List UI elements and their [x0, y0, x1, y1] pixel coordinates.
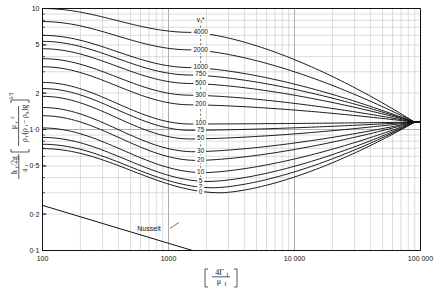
nusselt-leader-line [170, 222, 179, 228]
curve-label: 1000 [193, 63, 208, 70]
chart-root: 0·10·20·51·02510100100010 000100 0004000… [0, 0, 439, 295]
y-axis-tick-label: 0·5 [29, 162, 39, 169]
x-axis-tick-label: 1000 [161, 255, 177, 262]
data-curve [43, 49, 421, 122]
curve-label: 300 [195, 91, 206, 98]
curve-param-symbol: v₁* [197, 16, 205, 23]
x-axis-tick-label: 10 000 [284, 255, 306, 262]
data-curve [43, 59, 421, 123]
curve-label: 10 [197, 168, 205, 175]
y-label-bracket-denominator-rest-3: )g [20, 105, 29, 111]
y-label-bracket-numerator-subscript: f [14, 121, 19, 123]
y-label-bracket-numerator-superscript: 2 [10, 116, 15, 119]
curve-label: 4000 [193, 28, 208, 35]
y-axis-tick-label: 5 [36, 41, 40, 48]
y-label-bracket-numerator: μ [9, 125, 18, 129]
y-axis: 0·10·20·51·02510 [29, 5, 46, 254]
data-curve [43, 122, 421, 193]
x-label-denominator-subscript: f [225, 281, 227, 287]
nusselt-line [43, 205, 193, 250]
y-axis-tick-label: 2 [36, 90, 40, 97]
y-label-bracket [11, 149, 29, 152]
y-label-lead-denominator-subscript: f [24, 164, 29, 166]
data-curve [43, 122, 421, 181]
y-label-exponent: 1/3 [8, 92, 14, 99]
x-label-bracket [205, 269, 208, 287]
curve-label: 0 [199, 188, 203, 195]
data-curve [43, 96, 421, 139]
curve-label: 75 [197, 126, 205, 133]
y-label-lead-numerator: h [10, 170, 19, 174]
x-axis: 100100010 000100 000 [37, 255, 434, 262]
curve-family [43, 9, 421, 193]
data-curve [43, 67, 421, 122]
curve-label: 500 [195, 79, 206, 86]
nusselt-annotation-label: Nusselt [137, 225, 160, 232]
x-axis-tick-label: 100 [37, 255, 49, 262]
y-axis-tick-label: 10 [32, 5, 40, 12]
x-label-numerator: 4Γ [215, 268, 224, 277]
condensation-film-coefficient-chart: 0·10·20·51·02510100100010 000100 0004000… [0, 0, 439, 295]
y-label-lead-numerator-rest: /2g [10, 156, 19, 166]
y-label-bracket-denominator-rest-2: − ρ [20, 114, 29, 124]
x-label-bracket [234, 269, 237, 287]
curve-label: 750 [195, 70, 206, 77]
curve-label: 20 [197, 156, 205, 163]
y-axis-tick-label: 0·2 [29, 211, 39, 218]
y-label-lead-denominator: a [20, 168, 29, 172]
x-label-denominator: μ [217, 277, 221, 286]
data-curve [43, 9, 421, 123]
x-axis-tick-label: 100 000 [408, 255, 433, 262]
curve-label: 50 [197, 134, 205, 141]
y-axis-tick-label: 1·0 [29, 126, 39, 133]
data-curve [43, 82, 421, 124]
y-label-bracket-denominator-subscript: f [24, 136, 29, 138]
curve-label: 30 [197, 147, 205, 154]
y-axis-label: hf/2gafμf2ρf(ρf − ρg)g1/3 [8, 92, 29, 179]
y-label-bracket-denominator-rest: (ρ [20, 128, 29, 134]
y-axis-tick-label: 0·1 [29, 247, 39, 254]
curve-label: 2000 [193, 46, 208, 53]
curve-label: 200 [195, 100, 206, 107]
x-axis-label: 4Γfμf [205, 268, 237, 288]
y-label-bracket-denominator: ρ [20, 138, 29, 142]
curve-label-ladder: 4000200010007505003002001007550302010520 [191, 26, 210, 196]
